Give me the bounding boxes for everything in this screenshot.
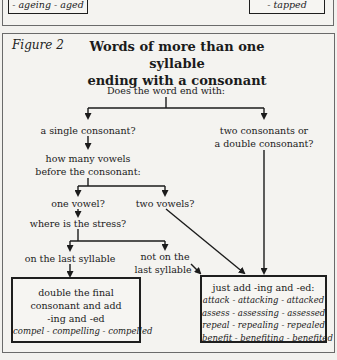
outcome-just-add-example-1: attack - attacking - attacked <box>202 294 325 307</box>
outcome-just-add-box: just add -ing and -ed: attack - attackin… <box>200 275 327 343</box>
outcome-just-add-example-4: benefit - benefiting - benefited <box>202 332 325 345</box>
outcome-just-add-example-2: assess - assessing - assessed <box>202 307 325 320</box>
node-not-last-line2: last syllable <box>134 263 191 276</box>
outcome-just-add-example-3: repeal - repealing - repealed <box>202 319 325 332</box>
node-single-consonant: a single consonant? <box>40 124 135 137</box>
node-how-many-line1: how many vowels <box>46 152 131 165</box>
outcome-double-line2: consonant and add <box>13 299 139 312</box>
outcome-double-line1: double the final <box>13 286 139 299</box>
node-where-stress: where is the stress? <box>30 217 126 230</box>
node-how-many-line2: before the consonant: <box>35 165 140 178</box>
outcome-double-box: double the final consonant and add -ing … <box>11 277 141 343</box>
node-one-vowel: one vowel? <box>51 197 104 210</box>
outcome-double-line3: -ing and -ed <box>13 312 139 325</box>
node-two-consonants-line2: a double consonant? <box>215 137 314 150</box>
node-two-consonants-line1: two consonants or <box>220 124 308 137</box>
outcome-double-example: compel - compelling - compelled <box>13 325 139 338</box>
node-last-syllable: on the last syllable <box>25 252 116 265</box>
node-two-vowels: two vowels? <box>136 197 195 210</box>
outcome-just-add-heading: just add -ing and -ed: <box>202 281 325 294</box>
node-not-last-line1: not on the <box>140 250 189 263</box>
node-root: Does the word end with: <box>107 84 225 97</box>
